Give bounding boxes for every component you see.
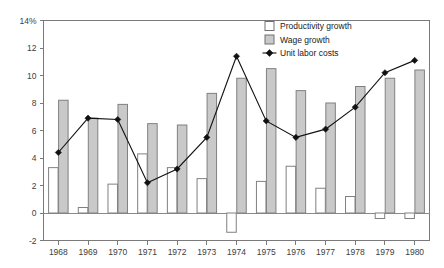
legend-swatch-wage <box>265 35 274 44</box>
x-tick-label: 1978 <box>346 247 365 257</box>
y-tick-label: 14% <box>19 16 36 26</box>
bar-wage <box>266 69 276 213</box>
x-tick-label: 1976 <box>286 247 305 257</box>
x-tick-label: 1975 <box>257 247 276 257</box>
bar-productivity <box>78 208 88 214</box>
bar-productivity <box>227 213 237 232</box>
x-tick-label: 1969 <box>79 247 98 257</box>
chart-container: 14%121086420-2 1968196919701971197219731… <box>0 0 444 268</box>
x-tick-label: 1968 <box>49 247 68 257</box>
bar-wage <box>207 93 217 213</box>
bar-productivity <box>256 181 266 213</box>
chart-legend: Productivity growthWage growthUnit labor… <box>263 21 353 58</box>
bar-wage <box>148 124 158 213</box>
bar-productivity <box>286 166 296 213</box>
legend-label: Wage growth <box>280 35 330 45</box>
ulc-data-marker <box>412 57 418 63</box>
ulc-data-marker <box>233 53 239 59</box>
bar-wage <box>237 78 247 213</box>
y-tick-label: 4 <box>32 153 37 163</box>
x-tick-label: 1977 <box>316 247 335 257</box>
y-tick-label: -2 <box>29 236 37 246</box>
bar-productivity <box>346 197 356 214</box>
legend-label: Unit labor costs <box>280 48 339 58</box>
x-tick-label: 1972 <box>168 247 187 257</box>
bar-productivity <box>316 188 326 213</box>
legend-swatch-productivity <box>265 22 274 31</box>
x-tick-label: 1979 <box>376 247 395 257</box>
bar-wage <box>59 100 69 213</box>
y-axis-ticks: 14%121086420-2 <box>19 16 43 246</box>
x-tick-label: 1973 <box>197 247 216 257</box>
chart-canvas: 14%121086420-2 1968196919701971197219731… <box>0 0 444 268</box>
x-tick-label: 1970 <box>108 247 127 257</box>
y-tick-label: 10 <box>27 71 37 81</box>
y-tick-label: 6 <box>32 126 37 136</box>
bar-productivity <box>49 168 59 213</box>
x-axis-ticks: 1968196919701971197219731974197519761977… <box>49 241 424 257</box>
bar-productivity <box>197 179 207 213</box>
bar-wage <box>296 91 306 213</box>
bar-wage <box>326 103 336 213</box>
bar-productivity <box>405 213 415 219</box>
bar-productivity <box>375 213 385 219</box>
bar-productivity <box>108 184 118 213</box>
y-tick-label: 2 <box>32 181 37 191</box>
legend-label: Productivity growth <box>280 21 352 31</box>
y-tick-label: 0 <box>32 208 37 218</box>
bar-wage <box>88 118 98 213</box>
y-tick-label: 8 <box>32 98 37 108</box>
y-tick-label: 12 <box>27 43 37 53</box>
x-tick-label: 1971 <box>138 247 157 257</box>
bar-wage <box>415 70 425 213</box>
x-tick-label: 1980 <box>405 247 424 257</box>
bar-wage <box>385 78 395 213</box>
x-tick-label: 1974 <box>227 247 246 257</box>
bar-productivity <box>167 168 177 213</box>
